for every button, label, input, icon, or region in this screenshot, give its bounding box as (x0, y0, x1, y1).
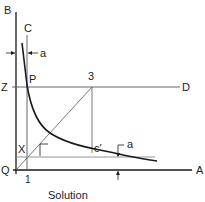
label-p: P (29, 73, 36, 85)
label-x: X (18, 143, 26, 155)
label-b: B (4, 4, 11, 16)
curve (22, 43, 157, 161)
label-a-top: a (40, 47, 47, 59)
label-c: C (24, 22, 32, 34)
label-q: Q (1, 164, 10, 176)
label-z: Z (1, 81, 8, 93)
label-a-bottom: a (127, 138, 134, 150)
caption: Solution (48, 189, 88, 201)
label-3: 3 (88, 70, 94, 82)
label-c-prime: c′ (94, 142, 102, 154)
label-d: D (182, 81, 190, 93)
a-bottom-arrowhead-down (116, 153, 120, 157)
a-bottom-leader (40, 144, 48, 156)
label-a-axis: A (196, 164, 204, 176)
a-bottom-arrowhead-up (116, 171, 120, 175)
a-top-arrowhead-right (28, 51, 32, 55)
label-1: 1 (25, 174, 31, 185)
a-top-arrowhead-left (11, 51, 15, 55)
solution-diagram: B C a P Z 3 D X c′ a Q A 1 Solution (0, 0, 205, 202)
